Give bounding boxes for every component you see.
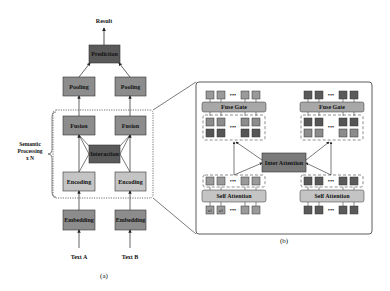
inter-attention-label: Inter Attention bbox=[265, 160, 304, 166]
result-label: Result bbox=[96, 18, 112, 24]
panel-b: ••• Fuse Gate ••• bbox=[196, 82, 372, 245]
svg-text:•••: ••• bbox=[230, 207, 236, 213]
self-attention-left-label: Self Attention bbox=[216, 193, 252, 199]
model-architecture-diagram: Result Prediction Pooling Pooling Fusion… bbox=[0, 0, 390, 291]
fuse-gate-left-label: Fuse Gate bbox=[221, 104, 247, 110]
prediction-label: Prediction bbox=[91, 51, 118, 57]
svg-text:a2: a2 bbox=[219, 208, 223, 213]
side-label-line2: Processing bbox=[18, 148, 43, 154]
fuse-gate-right-label: Fuse Gate bbox=[319, 104, 345, 110]
svg-text:•••: ••• bbox=[230, 178, 236, 184]
fusion-right-label: Fusion bbox=[122, 123, 140, 129]
encoding-left-label: Encoding bbox=[67, 179, 91, 185]
ellipsis: ••• bbox=[230, 92, 236, 98]
fusion-left-label: Fusion bbox=[70, 123, 88, 129]
text-a-label: Text A bbox=[71, 254, 88, 260]
panel-a: Result Prediction Pooling Pooling Fusion… bbox=[18, 18, 196, 280]
pooling-left-label: Pooling bbox=[69, 84, 88, 90]
svg-text:a1: a1 bbox=[208, 208, 212, 213]
panel-b-caption: (b) bbox=[280, 237, 289, 245]
interaction-label: Interaction bbox=[90, 151, 119, 157]
text-b-label: Text B bbox=[122, 254, 139, 260]
svg-text:•••: ••• bbox=[328, 207, 334, 213]
embedding-left-label: Embedding bbox=[64, 217, 94, 223]
svg-text:•••: ••• bbox=[328, 178, 334, 184]
side-label-line3: x N bbox=[26, 155, 34, 161]
svg-text:•••: ••• bbox=[328, 92, 334, 98]
brace-icon bbox=[48, 112, 56, 197]
panel-a-caption: (a) bbox=[100, 272, 108, 280]
pooling-right-label: Pooling bbox=[121, 84, 140, 90]
encoding-right-label: Encoding bbox=[118, 179, 142, 185]
self-attention-right-label: Self Attention bbox=[314, 193, 350, 199]
svg-text:•••: ••• bbox=[230, 124, 236, 130]
side-label-line1: Semantic bbox=[19, 141, 41, 147]
svg-text:•••: ••• bbox=[328, 124, 334, 130]
embedding-right-label: Embedding bbox=[116, 217, 146, 223]
